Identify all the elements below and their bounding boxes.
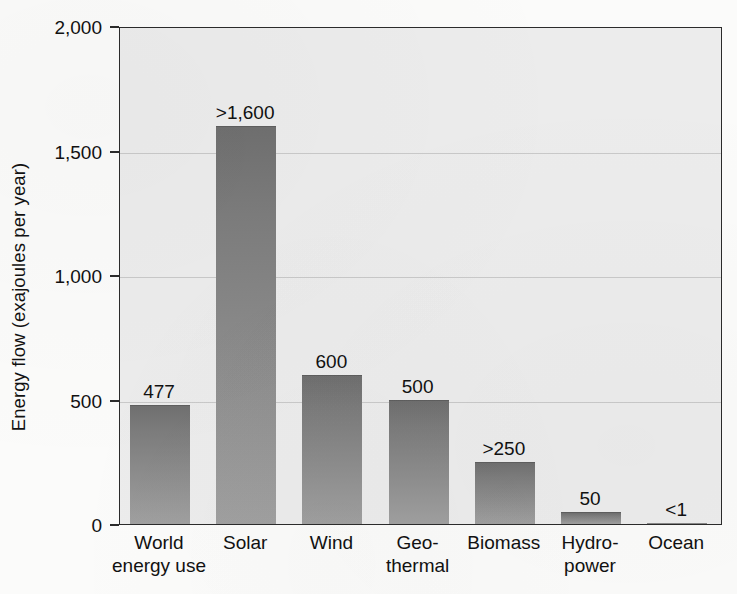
y-axis-tick-label: 0 (0, 516, 102, 535)
bar-value-label: <1 (665, 500, 687, 519)
bar-value-label: >250 (482, 439, 525, 458)
bar-wind (302, 375, 362, 524)
x-axis-label-hydro-power: Hydro-power (561, 531, 618, 577)
x-label-line-1: Biomass (467, 532, 540, 553)
y-axis-tick-mark (110, 400, 119, 402)
x-label-line-1: Hydro- (561, 532, 618, 553)
x-axis-label-ocean: Ocean (648, 531, 704, 554)
y-axis-tick-label: 1,500 (0, 143, 102, 162)
y-axis-tick-mark (110, 151, 119, 153)
bar-value-label: >1,600 (216, 103, 275, 122)
plot-area (119, 27, 722, 525)
y-axis-tick-mark (110, 26, 119, 28)
x-label-line-1: Wind (310, 532, 353, 553)
bar-world-energy-use (130, 405, 190, 524)
bar-value-label: 500 (402, 377, 434, 396)
bar-geo-thermal (389, 400, 449, 525)
x-axis-label-world-energy-use: Worldenergy use (112, 531, 206, 577)
x-label-line-1: World (134, 532, 183, 553)
x-axis-label-solar: Solar (223, 531, 267, 554)
y-axis-title: Energy flow (exajoules per year) (0, 0, 38, 594)
energy-flow-bar-chart: Energy flow (exajoules per year) 05001,0… (0, 0, 737, 594)
gridline (120, 277, 721, 278)
x-label-line-1: Geo- (396, 532, 438, 553)
x-label-line-1: Ocean (648, 532, 704, 553)
bar-value-label: 600 (316, 352, 348, 371)
y-axis-tick-label: 2,000 (0, 18, 102, 37)
y-axis-tick-label: 1,000 (0, 267, 102, 286)
bar-value-label: 477 (143, 382, 175, 401)
x-axis-label-wind: Wind (310, 531, 353, 554)
x-label-line-2: energy use (112, 554, 206, 577)
bar-value-label: 50 (579, 489, 600, 508)
y-axis-tick-label: 500 (0, 392, 102, 411)
plot-inner (120, 28, 721, 524)
bar-ocean (647, 523, 707, 525)
x-axis-label-geo-thermal: Geo-thermal (386, 531, 449, 577)
y-axis-tick-mark (110, 524, 119, 526)
x-label-line-1: Solar (223, 532, 267, 553)
bar-solar (216, 126, 276, 524)
gridline (120, 153, 721, 154)
y-axis-tick-mark (110, 275, 119, 277)
x-label-line-2: thermal (386, 554, 449, 577)
bar-biomass (475, 462, 535, 524)
x-label-line-2: power (561, 554, 618, 577)
bar-hydro-power (561, 512, 621, 524)
x-axis-label-biomass: Biomass (467, 531, 540, 554)
